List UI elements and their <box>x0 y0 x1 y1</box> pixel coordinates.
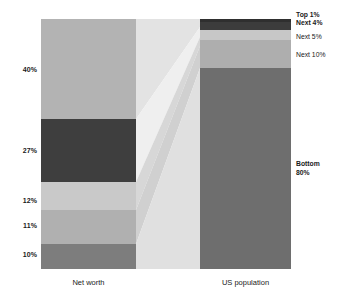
slope-stacked-bar-chart: 40% 27% 12% 11% 10% Net worth US populat… <box>0 0 350 303</box>
legend-label-bottom80-line2: 80% <box>296 169 310 177</box>
legend-label-next5: Next 5% <box>296 33 322 41</box>
legend-label-next10: Next 10% <box>296 51 325 59</box>
ribbon-top1 <box>136 19 200 119</box>
segment-us-population-bottom80 <box>200 68 291 269</box>
segment-us-population-next4 <box>200 22 291 30</box>
bar-us-population <box>200 19 291 269</box>
segment-net-worth-next5 <box>41 182 136 210</box>
category-label-us-population: US population <box>200 278 291 287</box>
legend-label-bottom80-line1: Bottom <box>296 160 320 168</box>
segment-net-worth-next10 <box>41 210 136 244</box>
ribbon-next5 <box>136 37 200 210</box>
segment-net-worth-bottom80 <box>41 244 136 269</box>
segment-net-worth-next4 <box>41 119 136 182</box>
ribbon-bottom80 <box>136 68 200 269</box>
segment-us-population-next5 <box>200 30 291 40</box>
category-label-net-worth: Net worth <box>41 278 136 287</box>
legend-label-next4: Next 4% <box>296 19 322 27</box>
segment-us-population-next10 <box>200 40 291 68</box>
axis-tick-11: 11% <box>4 222 37 229</box>
ribbon-next4 <box>136 27 200 182</box>
axis-tick-12: 12% <box>4 197 37 204</box>
axis-tick-40: 40% <box>4 66 37 73</box>
legend-label-top1: Top 1% <box>296 11 320 19</box>
axis-tick-27: 27% <box>4 147 37 154</box>
ribbon-next10 <box>136 46 200 244</box>
axis-tick-10: 10% <box>4 251 37 258</box>
segment-net-worth-top1 <box>41 19 136 119</box>
bar-net-worth <box>41 19 136 269</box>
